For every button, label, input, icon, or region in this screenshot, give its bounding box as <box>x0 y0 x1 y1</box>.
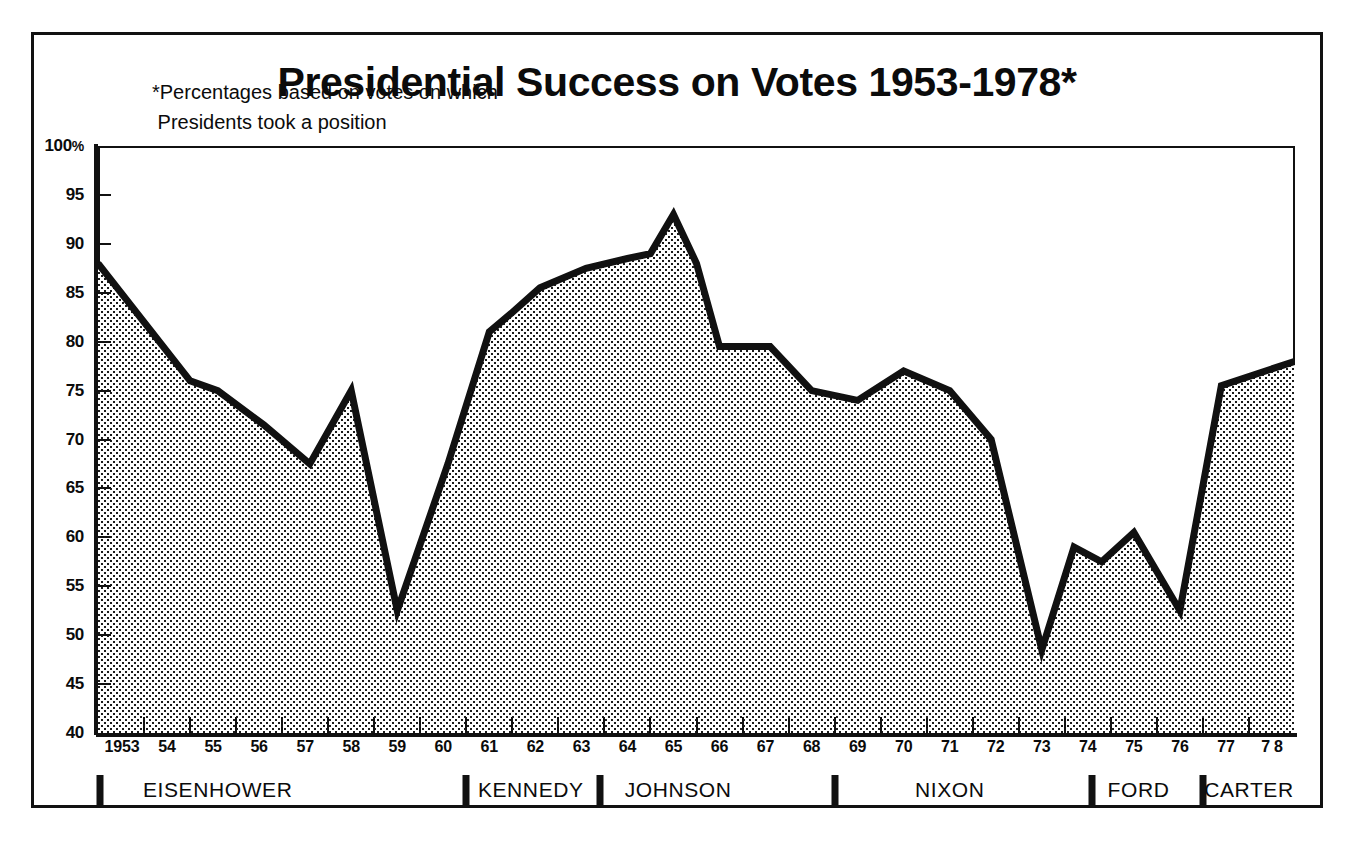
x-axis-tick-mark <box>373 717 375 734</box>
x-axis-tick-label: 73 <box>1033 738 1050 756</box>
y-axis-tick-mark <box>98 341 111 343</box>
x-axis-tick-label: 74 <box>1079 738 1096 756</box>
footnote-line-1: *Percentages based on votes on which <box>152 81 498 103</box>
y-axis-tick-label: 85 <box>24 283 84 303</box>
x-axis-tick-mark <box>419 717 421 734</box>
y-axis-tick-label: 55 <box>24 576 84 596</box>
chart-figure-frame: Presidential Success on Votes 1953-1978*… <box>31 32 1323 808</box>
x-axis-tick-label: 66 <box>711 738 728 756</box>
y-axis-tick-mark <box>98 243 111 245</box>
x-axis-tick-label: 70 <box>895 738 912 756</box>
president-label-eisenhower: EISENHOWER <box>143 778 293 802</box>
x-axis-tick-mark <box>1156 717 1158 734</box>
y-axis-tick-label: 95 <box>24 185 84 205</box>
x-axis-tick-label: 71 <box>941 738 958 756</box>
president-label-nixon: NIXON <box>915 778 985 802</box>
x-axis-tick-label: 64 <box>619 738 636 756</box>
president-label-ford: FORD <box>1108 778 1170 802</box>
x-axis-tick-label: 54 <box>158 738 175 756</box>
x-axis-tick-mark <box>880 717 882 734</box>
y-axis-tick-mark <box>98 487 111 489</box>
y-axis-tick-label: 75 <box>24 381 84 401</box>
y-axis-tick-mark <box>98 585 111 587</box>
x-axis-tick-mark <box>834 717 836 734</box>
president-term-divider <box>463 775 470 808</box>
y-axis-tick-mark <box>98 439 111 441</box>
x-axis-tick-mark <box>235 717 237 734</box>
x-axis-tick-mark <box>1018 717 1020 734</box>
y-axis-tick-label: 50 <box>24 625 84 645</box>
x-axis-tick-mark <box>742 717 744 734</box>
x-axis-tick-label: 76 <box>1171 738 1188 756</box>
y-axis-tick-mark <box>98 536 111 538</box>
y-axis-tick-label: 40 <box>24 723 84 743</box>
president-term-divider <box>97 775 104 808</box>
x-axis-tick-mark <box>649 717 651 734</box>
y-axis-top-value: 100 <box>44 136 71 155</box>
president-term-band: EISENHOWERKENNEDYJOHNSONNIXONFORDCARTER <box>98 775 1295 809</box>
x-axis-tick-label: 7 8 <box>1261 738 1283 756</box>
x-axis-tick-label: 59 <box>389 738 406 756</box>
x-axis-tick-label: 68 <box>803 738 820 756</box>
x-axis-tick-mark <box>1248 717 1250 734</box>
x-axis-tick-mark <box>972 717 974 734</box>
plot-area: 100%959085807570656055504540 19535455565… <box>98 146 1295 733</box>
y-axis-tick-mark <box>98 194 111 196</box>
x-axis-tick-mark <box>465 717 467 734</box>
x-axis-tick-mark <box>327 717 329 734</box>
president-label-carter: CARTER <box>1204 778 1294 802</box>
x-axis-tick-label: 77 <box>1217 738 1234 756</box>
y-axis-tick-label: 65 <box>24 478 84 498</box>
percent-symbol: % <box>72 138 84 154</box>
x-axis-tick-label: 63 <box>573 738 590 756</box>
y-axis-tick-label: 100% <box>24 136 84 156</box>
x-axis-tick-mark <box>143 717 145 734</box>
president-label-johnson: JOHNSON <box>625 778 732 802</box>
x-axis-tick-mark <box>281 717 283 734</box>
x-axis-tick-label: 1953 <box>105 738 140 756</box>
president-term-divider <box>1089 775 1096 808</box>
x-axis-tick-label: 55 <box>204 738 221 756</box>
x-axis-tick-mark <box>696 717 698 734</box>
y-axis-tick-label: 80 <box>24 332 84 352</box>
x-axis-tick-mark <box>511 717 513 734</box>
president-label-kennedy: KENNEDY <box>478 778 584 802</box>
x-axis-tick-mark <box>603 717 605 734</box>
x-axis-tick-label: 58 <box>343 738 360 756</box>
x-axis-tick-mark <box>788 717 790 734</box>
x-axis-tick-label: 69 <box>849 738 866 756</box>
x-axis-tick-label: 67 <box>757 738 774 756</box>
y-axis-tick-label: 70 <box>24 430 84 450</box>
president-term-divider <box>831 775 838 808</box>
x-axis-tick-mark <box>1110 717 1112 734</box>
x-axis-tick-label: 56 <box>250 738 267 756</box>
x-axis-tick-mark <box>189 717 191 734</box>
x-axis-tick-label: 72 <box>987 738 1004 756</box>
x-axis-tick-label: 60 <box>435 738 452 756</box>
y-axis-tick-mark <box>98 292 111 294</box>
y-axis-tick-label: 60 <box>24 527 84 547</box>
x-axis-tick-mark <box>557 717 559 734</box>
president-term-divider <box>596 775 603 808</box>
x-axis-tick-label: 57 <box>296 738 313 756</box>
y-axis-tick-mark <box>98 634 111 636</box>
area-fill-path <box>98 214 1295 733</box>
footnote-annotation: *Percentages based on votes on which Pre… <box>152 77 498 137</box>
x-axis-tick-mark <box>1064 717 1066 734</box>
x-axis-tick-label: 75 <box>1125 738 1142 756</box>
x-axis-tick-label: 62 <box>527 738 544 756</box>
footnote-line-2: Presidents took a position <box>152 111 387 133</box>
area-chart-svg <box>98 146 1295 733</box>
x-axis-tick-label: 61 <box>481 738 498 756</box>
y-axis-tick-label: 90 <box>24 234 84 254</box>
x-axis-tick-label: 65 <box>665 738 682 756</box>
x-axis-tick-mark <box>926 717 928 734</box>
y-axis-tick-mark <box>98 390 111 392</box>
y-axis-tick-label: 45 <box>24 674 84 694</box>
y-axis-tick-mark <box>98 683 111 685</box>
x-axis-tick-mark <box>1202 717 1204 734</box>
